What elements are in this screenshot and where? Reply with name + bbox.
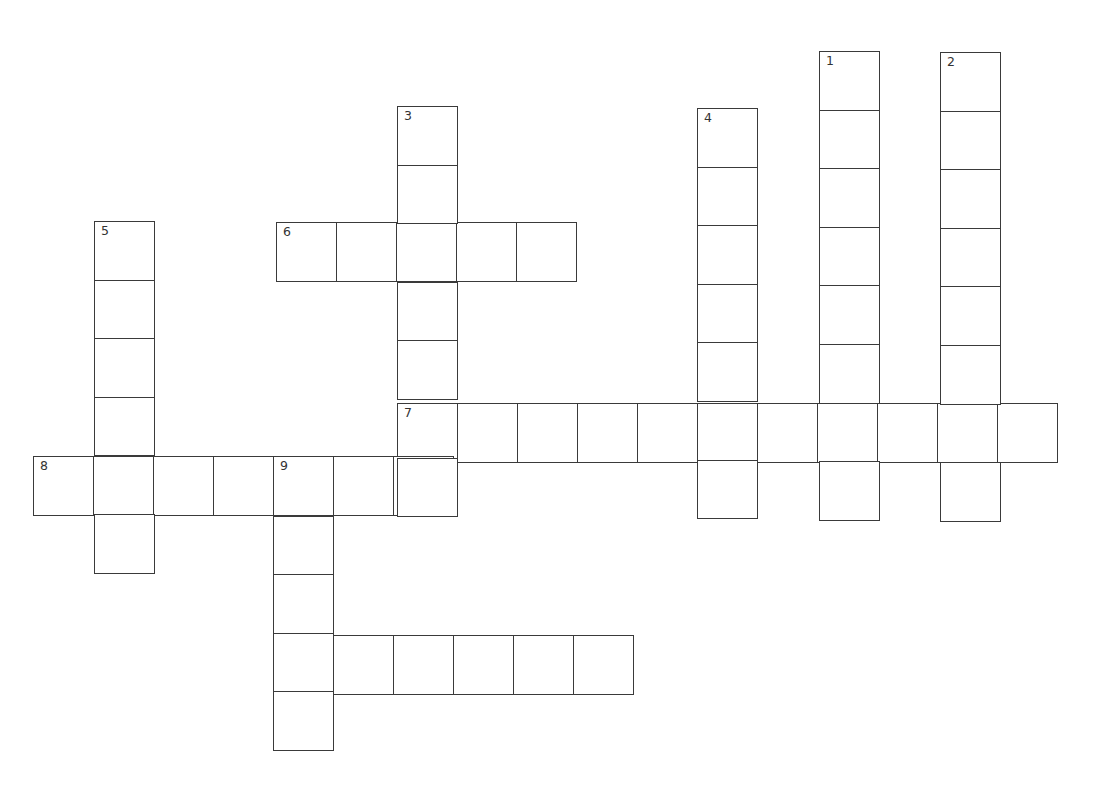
crossword-cell[interactable] [877, 403, 938, 463]
crossword-cell[interactable] [457, 403, 518, 463]
crossword-cell[interactable] [637, 403, 698, 463]
crossword-cell[interactable] [819, 344, 880, 404]
crossword-grid: 67891012345 [0, 0, 1099, 792]
clue-number: 7 [404, 407, 412, 420]
crossword-cell[interactable] [940, 228, 1001, 288]
crossword-cell[interactable]: 4 [697, 108, 758, 168]
clue-number: 2 [947, 56, 955, 69]
crossword-cell[interactable] [397, 340, 458, 400]
crossword-cell[interactable]: 8 [33, 456, 94, 516]
crossword-cell[interactable] [453, 635, 514, 695]
crossword-cell[interactable] [940, 462, 1001, 522]
clue-number: 9 [280, 460, 288, 473]
crossword-cell[interactable] [819, 168, 880, 228]
crossword-cell[interactable] [697, 167, 758, 227]
crossword-cell[interactable] [940, 111, 1001, 171]
crossword-cell[interactable] [94, 280, 155, 340]
crossword-cell[interactable]: 1 [819, 51, 880, 111]
crossword-cell[interactable] [697, 460, 758, 520]
crossword-cell[interactable] [94, 338, 155, 398]
crossword-cell[interactable] [273, 574, 334, 634]
clue-number: 6 [283, 226, 291, 239]
crossword-cell[interactable]: 3 [397, 106, 458, 166]
crossword-cell[interactable] [697, 403, 758, 463]
crossword-cell[interactable] [516, 222, 577, 282]
crossword-cell[interactable]: 9 [273, 456, 334, 516]
crossword-cell[interactable] [577, 403, 638, 463]
crossword-cell[interactable] [393, 635, 454, 695]
crossword-cell[interactable] [273, 691, 334, 751]
crossword-cell[interactable] [397, 458, 458, 518]
crossword-cell[interactable] [937, 403, 998, 463]
crossword-cell[interactable] [573, 635, 634, 695]
crossword-cell[interactable] [817, 403, 878, 463]
crossword-cell[interactable] [94, 514, 155, 574]
crossword-cell[interactable] [697, 342, 758, 402]
crossword-cell[interactable] [273, 633, 334, 693]
crossword-cell[interactable] [397, 165, 458, 225]
crossword-cell[interactable] [819, 285, 880, 345]
crossword-cell[interactable] [333, 635, 394, 695]
clue-number: 3 [404, 110, 412, 123]
crossword-cell[interactable] [336, 222, 397, 282]
crossword-cell[interactable] [997, 403, 1058, 463]
crossword-cell[interactable] [94, 397, 155, 457]
crossword-cell[interactable] [273, 516, 334, 576]
crossword-cell[interactable] [456, 222, 517, 282]
crossword-cell[interactable] [93, 456, 154, 516]
crossword-cell[interactable] [697, 284, 758, 344]
crossword-cell[interactable] [333, 456, 394, 516]
crossword-cell[interactable]: 2 [940, 52, 1001, 112]
clue-number: 5 [101, 225, 109, 238]
crossword-cell[interactable] [697, 225, 758, 285]
crossword-cell[interactable] [819, 461, 880, 521]
crossword-cell[interactable]: 6 [276, 222, 337, 282]
crossword-cell[interactable] [819, 110, 880, 170]
crossword-cell[interactable] [757, 403, 818, 463]
crossword-cell[interactable] [153, 456, 214, 516]
crossword-cell[interactable] [940, 169, 1001, 229]
crossword-cell[interactable] [940, 286, 1001, 346]
clue-number: 8 [40, 460, 48, 473]
clue-number: 4 [704, 112, 712, 125]
crossword-cell[interactable] [397, 282, 458, 342]
crossword-cell[interactable] [396, 222, 457, 282]
crossword-cell[interactable]: 7 [397, 403, 458, 463]
crossword-cell[interactable] [819, 227, 880, 287]
clue-number: 1 [826, 55, 834, 68]
crossword-cell[interactable] [517, 403, 578, 463]
crossword-cell[interactable]: 5 [94, 221, 155, 281]
crossword-cell[interactable] [213, 456, 274, 516]
crossword-cell[interactable] [940, 345, 1001, 405]
crossword-cell[interactable] [513, 635, 574, 695]
